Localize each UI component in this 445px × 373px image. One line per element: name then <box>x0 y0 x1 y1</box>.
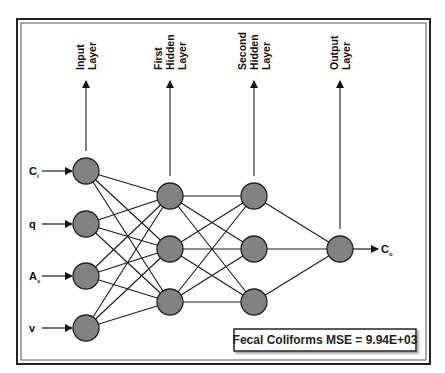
input-label-v: v <box>29 322 36 334</box>
layer-label-output: OutputLayer <box>328 35 352 70</box>
output-label: Co <box>381 243 393 257</box>
input-node-4 <box>73 315 99 341</box>
mse-text: Fecal Coliforms MSE = 9.94E+03 <box>233 333 418 347</box>
layer-label-hidden1: FirstHiddenLayer <box>152 34 188 70</box>
hidden2-node-2 <box>241 236 267 262</box>
layer-label-line: Input <box>74 44 86 70</box>
hidden1-node-3 <box>157 289 183 315</box>
input-node-1 <box>73 158 99 184</box>
hidden2-node-3 <box>241 289 267 315</box>
input-label-a: As <box>29 270 41 284</box>
layer-label-line: Hidden <box>248 34 260 70</box>
input-node-2 <box>73 211 99 237</box>
layer-label-line: Layer <box>260 42 272 70</box>
layer-label-line: Layer <box>340 42 352 70</box>
layer-labels: InputLayerFirstHiddenLayerSecondHiddenLa… <box>74 32 352 70</box>
output-node-1 <box>327 236 353 262</box>
connection-line <box>86 249 170 328</box>
hidden1-node-2 <box>157 236 183 262</box>
layer-label-line: First <box>152 47 164 70</box>
neural-network-diagram: InputLayerFirstHiddenLayerSecondHiddenLa… <box>0 0 445 373</box>
input-label-c: Ci <box>29 165 39 179</box>
hidden2-node-1 <box>241 183 267 209</box>
layer-label-line: Second <box>236 32 248 70</box>
connection-line <box>86 196 170 328</box>
layer-label-hidden2: SecondHiddenLayer <box>236 32 272 70</box>
layer-label-line: Layer <box>86 42 98 70</box>
connections <box>86 171 340 328</box>
connection-line <box>254 249 340 302</box>
input-label-q: q <box>29 218 36 230</box>
mse-box: Fecal Coliforms MSE = 9.94E+03 <box>233 329 418 351</box>
hidden1-node-1 <box>157 183 183 209</box>
layer-label-line: Hidden <box>164 34 176 70</box>
connection-line <box>254 196 340 249</box>
layer-label-line: Layer <box>176 42 188 70</box>
input-node-3 <box>73 263 99 289</box>
layer-label-line: Output <box>328 35 340 70</box>
layer-label-input: InputLayer <box>74 42 98 70</box>
